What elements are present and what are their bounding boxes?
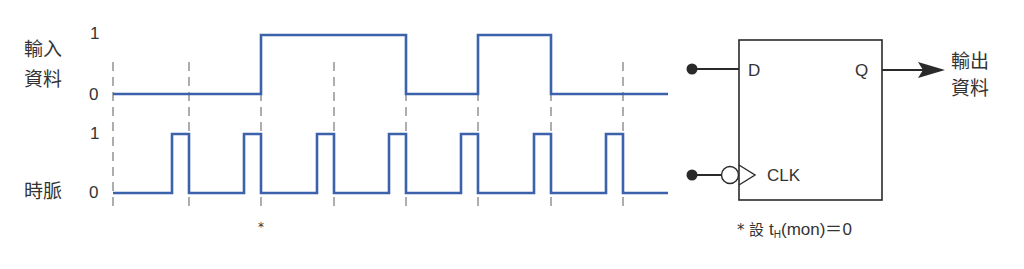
output-label-line1: 輸出 bbox=[951, 52, 989, 71]
note-rest: (mon)＝0 bbox=[781, 220, 852, 239]
d-pin-label: D bbox=[748, 62, 760, 79]
clock-edge-triangle-icon bbox=[739, 165, 755, 185]
output-label-line2: 資料 bbox=[951, 79, 989, 98]
d-flip-flop bbox=[687, 40, 946, 200]
note-subscript: H bbox=[774, 229, 781, 240]
asterisk-marker: * bbox=[258, 220, 264, 234]
note-prefix: * 設 bbox=[737, 221, 769, 239]
hold-time-note: * 設 tH(mon)＝0 bbox=[737, 221, 852, 240]
timing-diagram bbox=[0, 0, 1024, 269]
q-pin-label: Q bbox=[855, 62, 868, 79]
data-input-waveform bbox=[113, 35, 668, 94]
clk-pin-label: CLK bbox=[767, 167, 800, 184]
clock-waveform bbox=[113, 134, 668, 193]
inversion-bubble-icon bbox=[722, 167, 739, 184]
